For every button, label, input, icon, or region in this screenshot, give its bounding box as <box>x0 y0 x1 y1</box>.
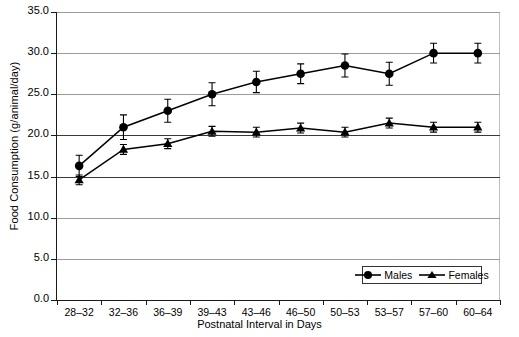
legend-label-females: Females <box>448 269 488 281</box>
legend-entry-females: Females <box>419 269 488 281</box>
legend-label-males: Males <box>384 269 412 281</box>
y-tick-mark <box>51 135 57 136</box>
data-point-circle-marker <box>75 162 84 171</box>
y-tick-mark <box>51 12 57 13</box>
data-point-triangle-marker <box>296 123 305 131</box>
data-point-circle-marker <box>163 106 172 115</box>
series-females <box>75 118 483 185</box>
y-tick-mark <box>51 177 57 178</box>
data-point-circle-marker <box>429 49 438 58</box>
data-series-layer <box>0 0 519 337</box>
data-point-circle-marker <box>252 78 261 87</box>
legend-triangle-marker-icon <box>419 269 445 281</box>
data-point-circle-marker <box>341 61 350 70</box>
y-tick-mark <box>51 94 57 95</box>
series-line <box>79 53 478 166</box>
data-point-triangle-marker <box>385 118 394 126</box>
series-line <box>79 123 478 180</box>
data-point-circle-marker <box>385 69 394 78</box>
legend-circle-marker-icon <box>355 269 381 281</box>
data-point-circle-marker <box>474 49 483 58</box>
y-tick-mark <box>51 53 57 54</box>
chart-legend: Males Females <box>362 266 482 284</box>
y-tick-mark <box>51 218 57 219</box>
x-axis-title: Postnatal Interval in Days <box>0 318 519 330</box>
y-tick-mark <box>51 300 57 301</box>
data-point-circle-marker <box>119 123 128 132</box>
legend-entry-males: Males <box>355 269 412 281</box>
y-tick-mark <box>51 259 57 260</box>
food-consumption-chart: Food Consumption (g/animal/day) 0.05.010… <box>0 0 519 337</box>
data-point-circle-marker <box>296 69 305 78</box>
series-males <box>75 43 482 176</box>
data-point-circle-marker <box>208 90 217 99</box>
